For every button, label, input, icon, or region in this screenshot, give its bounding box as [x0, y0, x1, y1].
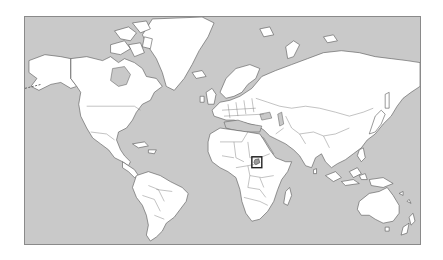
- world-map-svg: [25, 17, 420, 244]
- pacific-islands: [399, 191, 411, 203]
- new-guinea: [369, 178, 393, 188]
- tasmania: [385, 227, 389, 231]
- caribbean-islands: [132, 142, 156, 154]
- madagascar: [284, 187, 292, 205]
- svalbard: [260, 27, 274, 37]
- novaya-zemlya: [286, 41, 300, 59]
- british-isles: [200, 88, 216, 104]
- sri-lanka: [314, 169, 317, 174]
- sakhalin: [385, 92, 389, 108]
- world-map: [24, 16, 421, 245]
- australia: [357, 187, 399, 223]
- severnaya-zemlya: [323, 35, 337, 43]
- indonesia: [325, 168, 367, 186]
- canada-arctic-islands: [111, 21, 153, 57]
- alaska: [29, 55, 77, 91]
- iceland: [192, 71, 206, 79]
- south-america: [132, 172, 188, 241]
- central-america: [123, 162, 139, 178]
- new-zealand: [401, 213, 415, 235]
